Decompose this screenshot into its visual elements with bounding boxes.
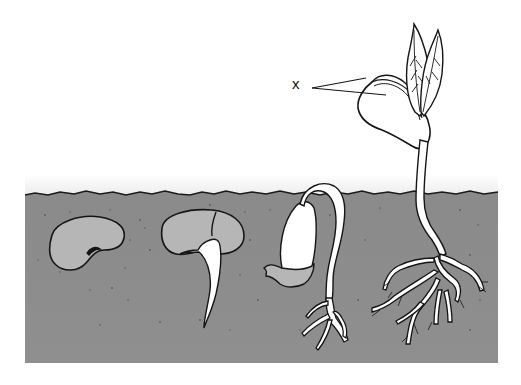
label-x: x (292, 76, 300, 91)
germination-diagram (0, 0, 521, 385)
diagram-svg (0, 0, 521, 385)
leaf-right (421, 30, 443, 116)
